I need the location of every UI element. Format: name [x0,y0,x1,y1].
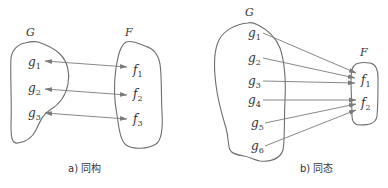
arrow-g2-f1 [263,58,355,78]
set-g-label-a: G [26,26,35,39]
mapping-diagram: G F g1 g2 g3 f1 f2 f3 a) 同构 G F g1 g2 g3… [0,0,388,188]
panel-a-isomorphism: G F g1 g2 g3 f1 f2 f3 a) 同构 [11,26,163,174]
arrow-g6-f2 [265,110,356,146]
element-g3-a: g3 [28,106,41,122]
panel-b-homomorphism: G F g1 g2 g3 g4 g5 g6 f1 f2 b) 同态 [214,6,378,174]
set-g-label-b: G [245,6,254,19]
element-g4-b: g4 [248,93,261,109]
element-f2-b: f2 [360,96,371,112]
arrow-g1-f1 [45,61,127,67]
element-g3-b: g3 [248,74,261,90]
element-f1-b: f1 [360,73,371,89]
element-f3-a: f3 [132,112,143,128]
caption-b: b) 同态 [300,162,333,174]
set-f-blob-b [351,62,378,125]
caption-a: a) 同构 [68,162,101,174]
element-g5-b: g5 [251,116,264,132]
arrow-g3-f3 [45,113,127,119]
element-g1-a: g1 [28,55,41,71]
set-f-label-b: F [359,46,368,59]
set-g-blob-b [214,23,285,162]
element-f2-a: f2 [132,87,143,103]
arrow-g3-f1 [263,81,355,83]
element-f1-a: f1 [132,63,143,79]
set-f-label-a: F [124,26,133,39]
element-g1-b: g1 [248,26,261,42]
arrow-g5-f2 [265,104,356,123]
arrow-g1-f1 [263,33,356,73]
element-g6-b: g6 [251,139,264,155]
element-g2-a: g2 [28,81,41,97]
element-g2-b: g2 [248,51,261,67]
